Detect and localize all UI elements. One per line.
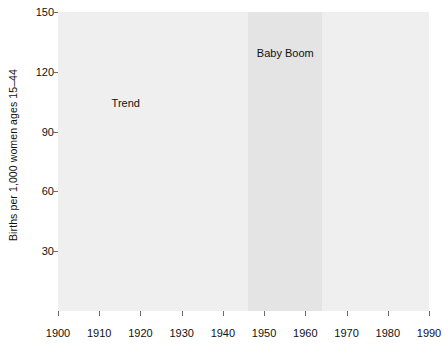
x-tickmark-1950 [264,311,265,316]
x-tick-label-1970: 1970 [334,327,358,339]
x-tickmark-1920 [140,311,141,316]
x-tickmark-1930 [182,311,183,316]
y-tick-label-120: 120 [28,66,54,78]
x-tickmark-1940 [223,311,224,316]
x-tick-label-1900: 1900 [46,327,70,339]
shaded-band-pre-boom [58,12,248,311]
y-axis-title: Births per 1,000 women ages 15–44 [7,69,19,241]
x-tick-label-1920: 1920 [128,327,152,339]
x-tick-label-1930: 1930 [169,327,193,339]
x-tick-label-1950: 1950 [252,327,276,339]
x-tickmark-1970 [347,311,348,316]
x-tick-label-1910: 1910 [87,327,111,339]
y-axis-title-container: Births per 1,000 women ages 15–44 [0,0,26,310]
trend-annotation: Trend [112,97,140,109]
birth-rate-chart: Births per 1,000 women ages 15–44 150 12… [0,0,448,351]
y-tick-label-60: 60 [28,185,54,197]
y-axis-ticks: 150 120 90 60 30 [26,0,54,351]
x-tick-label-1990: 1990 [417,327,441,339]
y-tick-label-30: 30 [28,245,54,257]
x-tickmark-1980 [388,311,389,316]
y-tick-label-150: 150 [28,6,54,18]
x-tick-label-1960: 1960 [293,327,317,339]
x-tickmark-1960 [305,311,306,316]
x-tick-label-1940: 1940 [211,327,235,339]
shaded-band-post-boom [322,12,429,311]
x-tickmark-1910 [99,311,100,316]
x-tickmark-1990 [429,311,430,316]
baby-boom-annotation: Baby Boom [257,47,314,59]
y-tick-label-90: 90 [28,126,54,138]
x-tickmark-1900 [58,311,59,316]
plot-area: Trend Baby Boom [58,12,429,311]
x-tick-label-1980: 1980 [376,327,400,339]
